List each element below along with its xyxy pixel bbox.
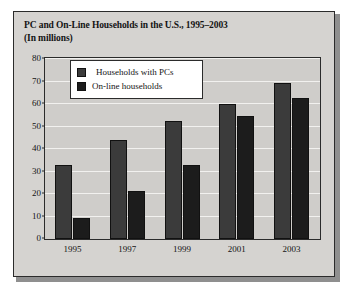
legend-label-pc: Households with PCs <box>96 67 174 77</box>
legend-label-online: On-line households <box>92 81 162 91</box>
y-axis-tick-label: 80 <box>32 53 41 63</box>
x-axis-tick-label: 2003 <box>283 244 301 254</box>
y-axis-tick-label: 60 <box>32 98 41 108</box>
y-axis-tick-mark <box>42 80 45 81</box>
bar-online-households <box>237 116 254 239</box>
chart-title: PC and On-Line Households in the U.S., 1… <box>24 19 324 44</box>
bar-online-households <box>128 191 145 239</box>
y-axis-tick-label: 20 <box>32 188 41 198</box>
x-axis-tick-label: 1997 <box>118 244 136 254</box>
y-axis-tick-mark <box>42 238 45 239</box>
bar-group: 2003 <box>274 58 309 239</box>
y-axis-tick-label: 0 <box>37 233 42 243</box>
bar-group: 2001 <box>219 58 254 239</box>
chart-figure: PC and On-Line Households in the U.S., 1… <box>0 0 350 296</box>
chart-title-line-1: PC and On-Line Households in the U.S., 1… <box>24 19 324 32</box>
x-axis-tick-label: 1995 <box>63 244 81 254</box>
bar-households-with-pcs <box>274 83 291 239</box>
y-axis-tick-label: 40 <box>32 143 41 153</box>
legend-swatch-icon-online <box>77 82 86 91</box>
y-axis-tick-label: 10 <box>32 211 41 221</box>
y-axis-tick-mark <box>42 193 45 194</box>
y-axis-tick-mark <box>42 125 45 126</box>
y-axis-tick-mark <box>42 215 45 216</box>
bar-households-with-pcs <box>165 121 182 239</box>
chart-panel: PC and On-Line Households in the U.S., 1… <box>13 11 335 277</box>
x-axis-tick-label: 1999 <box>173 244 191 254</box>
legend-swatch-icon-pc <box>77 68 86 77</box>
bar-households-with-pcs <box>110 140 127 239</box>
legend-item-online-households: On-line households <box>77 79 196 93</box>
bar-online-households <box>73 218 90 239</box>
y-axis-tick-label: 70 <box>32 76 41 86</box>
bar-online-households <box>183 165 200 239</box>
x-axis-tick-label: 2001 <box>228 244 246 254</box>
y-axis-tick-mark <box>42 58 45 59</box>
chart-title-line-2: (In millions) <box>24 32 324 45</box>
y-axis-tick-mark <box>42 148 45 149</box>
bar-online-households <box>292 98 309 239</box>
y-axis-tick-label: 30 <box>32 166 41 176</box>
legend-item-households-with-pcs: Households with PCs <box>77 65 196 79</box>
y-axis-tick-mark <box>42 170 45 171</box>
chart-legend: Households with PCs On-line households <box>70 60 203 99</box>
bar-households-with-pcs <box>55 165 72 239</box>
y-axis-tick-label: 50 <box>32 121 41 131</box>
y-axis-tick-mark <box>42 103 45 104</box>
bar-households-with-pcs <box>219 104 236 239</box>
